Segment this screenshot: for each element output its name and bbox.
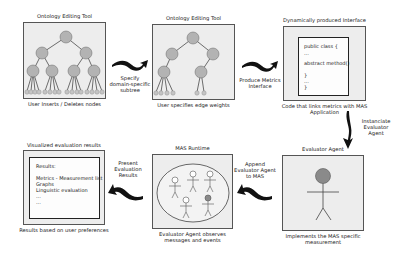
results-title: Visualized evaluation results (23, 142, 105, 148)
results-panel: Results: Metrics - Measurement list Grap… (23, 150, 105, 225)
interface-title: Dynamically produced Interface (283, 17, 366, 23)
arrow-right-icon (110, 56, 150, 76)
arrow-4-label: AppendEvaluator Agentto MAS (232, 161, 278, 180)
mas-runtime-title: MAS Runtime (152, 145, 233, 151)
mas-runtime-panel (152, 154, 233, 229)
interface-caption: Code that links metrics with MASApplicat… (278, 103, 371, 115)
arrow-5-label: PresentEvaluationResults (108, 160, 148, 179)
evaluator-agent-panel (282, 155, 364, 231)
subtree-icon (153, 25, 236, 101)
ontology-tool-1-title: Ontology Editing Tool (23, 13, 106, 19)
arrow-right-icon (240, 57, 280, 77)
results-line: Results: (36, 163, 56, 169)
results-line: ... (36, 199, 41, 205)
evaluator-agent-title: Evaluator Agent (282, 146, 364, 152)
evaluator-agent-caption: Implements the MAS specificmeasurement (277, 233, 369, 245)
ontology-tool-1-panel (23, 22, 106, 99)
code-line: } (304, 84, 307, 90)
ontology-tool-2-caption: User specifies edge weights (152, 102, 235, 108)
arrow-left-icon (107, 182, 145, 204)
interface-panel: public class { ... abstract method() } .… (283, 26, 366, 101)
ontology-tool-1-caption: User Inserts / Deletes nodes (23, 101, 106, 107)
agent-population-icon (153, 155, 234, 230)
arrow-left-icon (236, 182, 274, 204)
results-box: Results: Metrics - Measurement list Grap… (29, 157, 100, 219)
arrow-down-icon (340, 111, 356, 151)
results-caption: Results based on user preferences (18, 227, 110, 233)
full-tree-icon (24, 23, 107, 100)
code-line: abstract method() (304, 60, 349, 66)
ontology-tool-2-panel (152, 24, 235, 100)
code-line: ... (304, 50, 309, 56)
ontology-tool-2-title: Ontology Editing Tool (152, 15, 235, 21)
evaluator-agent-figure-icon (283, 156, 365, 232)
mas-runtime-caption: Evaluator Agent observesmessages and eve… (147, 231, 238, 243)
code-line: public class { (304, 43, 338, 49)
arrow-1-label: Specifydomain-specificsubtree (108, 75, 152, 94)
results-line: Linguistic evaluation (36, 187, 88, 193)
arrow-3-label: InstanciateEvaluatorAgent (356, 118, 396, 137)
code-box: public class { ... abstract method() } .… (298, 37, 349, 96)
arrow-2-label: Produce MetricsInterface (236, 77, 284, 89)
